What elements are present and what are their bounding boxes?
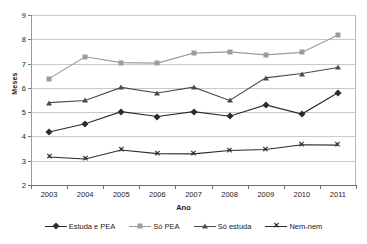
legend-marker-x-icon: ✕ (265, 226, 287, 227)
x-axis-tick-label: 2010 (282, 190, 322, 199)
y-axis-tick-label: 3 (8, 157, 26, 166)
legend-marker-diamond-icon (45, 226, 67, 227)
data-point-square (335, 32, 340, 37)
x-axis-tick (103, 185, 104, 189)
legend-item-4[interactable]: ✕Nem-nem (265, 222, 322, 231)
data-point-square (155, 61, 160, 66)
series-line-square (49, 35, 338, 79)
data-point-triangle (227, 98, 233, 103)
legend-marker-square-icon (129, 226, 151, 227)
line-chart: Meses ✕✕✕✕✕✕✕✕✕ 23456789 200320042005200… (0, 0, 367, 244)
x-axis-tick-label: 2004 (65, 190, 105, 199)
data-point-x: ✕ (82, 155, 89, 163)
x-axis-tick (284, 185, 285, 189)
data-point-triangle (82, 98, 88, 103)
y-axis-tick-label: 6 (8, 84, 26, 93)
legend-label: Nem-nem (289, 222, 322, 231)
data-point-x: ✕ (226, 146, 233, 154)
x-axis-title: Ano (0, 203, 367, 212)
x-axis-tick-label: 2007 (174, 190, 214, 199)
data-point-x: ✕ (334, 141, 341, 149)
y-axis-tick-label: 8 (8, 35, 26, 44)
x-axis-line (31, 185, 356, 186)
x-axis-tick-label: 2009 (246, 190, 286, 199)
data-point-x: ✕ (298, 141, 305, 149)
data-point-triangle (335, 65, 341, 70)
data-point-x: ✕ (46, 153, 53, 161)
x-axis-tick (175, 185, 176, 189)
data-point-square (299, 50, 304, 55)
y-axis-tick-label: 2 (8, 181, 26, 190)
series-lines (31, 15, 356, 185)
x-axis-tick-label: 2003 (29, 190, 69, 199)
y-axis-tick-label: 9 (8, 11, 26, 20)
data-point-square (227, 49, 232, 54)
data-point-square (119, 60, 124, 65)
data-point-square (263, 52, 268, 57)
y-axis-tick-label: 4 (8, 132, 26, 141)
data-point-triangle (263, 75, 269, 80)
legend-item-3[interactable]: Só estuda (194, 222, 252, 231)
legend-label: Só estuda (218, 222, 252, 231)
x-axis-tick-label: 2005 (101, 190, 141, 199)
y-axis-tick-label: 7 (8, 60, 26, 69)
chart-legend: Estuda e PEASó PEASó estuda✕Nem-nem (0, 222, 367, 231)
plot-area: ✕✕✕✕✕✕✕✕✕ (31, 15, 356, 185)
x-axis-tick (31, 185, 32, 189)
legend-label: Estuda e PEA (69, 222, 116, 231)
legend-marker-triangle-icon (194, 226, 216, 227)
legend-label: Só PEA (153, 222, 179, 231)
x-axis-tick (356, 185, 357, 189)
data-point-square (83, 54, 88, 59)
data-point-triangle (154, 90, 160, 95)
plot-right-border (355, 15, 356, 186)
y-axis-line (31, 15, 32, 186)
data-point-x: ✕ (190, 150, 197, 158)
x-axis-tick (212, 185, 213, 189)
legend-item-1[interactable]: Estuda e PEA (45, 222, 116, 231)
y-axis-tick-label: 5 (8, 108, 26, 117)
data-point-x: ✕ (154, 149, 161, 157)
x-axis-tick (320, 185, 321, 189)
x-axis-tick-label: 2006 (137, 190, 177, 199)
x-axis-tick-label: 2008 (210, 190, 250, 199)
data-point-triangle (191, 85, 197, 90)
x-axis-tick (139, 185, 140, 189)
data-point-triangle (118, 85, 124, 90)
x-axis-tick (67, 185, 68, 189)
data-point-x: ✕ (262, 145, 269, 153)
x-axis-tick-label: 2011 (318, 190, 358, 199)
legend-item-2[interactable]: Só PEA (129, 222, 179, 231)
data-point-triangle (299, 71, 305, 76)
x-axis-tick (248, 185, 249, 189)
data-point-square (47, 76, 52, 81)
data-point-triangle (46, 100, 52, 105)
data-point-x: ✕ (118, 146, 125, 154)
data-point-square (191, 51, 196, 56)
